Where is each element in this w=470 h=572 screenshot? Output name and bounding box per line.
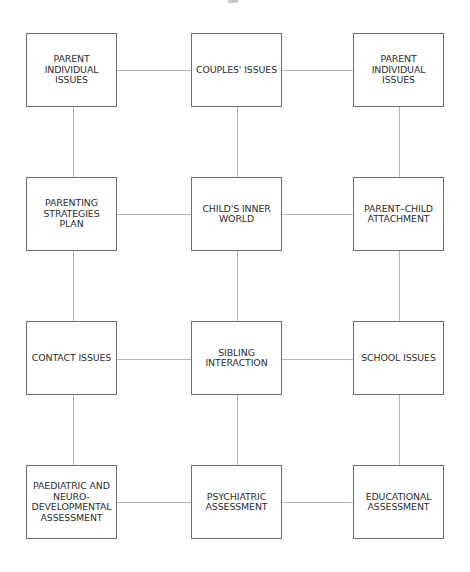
node-label: COUPLES' ISSUES: [196, 65, 277, 76]
connector: [399, 107, 400, 177]
connector: [237, 251, 238, 321]
node-paediatric-neurodevelopmental-assessment: PAEDIATRIC AND NEURO- DEVELOPMENTAL ASSE…: [26, 465, 117, 539]
node-school-issues: SCHOOL ISSUES: [353, 321, 444, 395]
node-parenting-strategies-plan: PARENTING STRATEGIES PLAN: [26, 177, 117, 251]
connector: [73, 107, 74, 177]
node-label: CHILD'S INNER WORLD: [202, 204, 270, 225]
node-contact-issues: CONTACT ISSUES: [26, 321, 117, 395]
connector: [117, 70, 191, 71]
node-label: EDUCATIONAL ASSESSMENT: [366, 492, 432, 513]
node-parent-child-attachment: PARENT–CHILD ATTACHMENT: [353, 177, 444, 251]
node-label: PARENT INDIVIDUAL ISSUES: [372, 54, 426, 86]
connector: [73, 251, 74, 321]
node-label: PSYCHIATRIC ASSESSMENT: [206, 492, 268, 513]
node-sibling-interaction: SIBLING INTERACTION: [191, 321, 282, 395]
node-label: SIBLING INTERACTION: [205, 348, 267, 369]
node-label: PARENT INDIVIDUAL ISSUES: [45, 54, 99, 86]
node-label: PARENT–CHILD ATTACHMENT: [364, 204, 433, 225]
node-parent-individual-issues-right: PARENT INDIVIDUAL ISSUES: [353, 33, 444, 107]
connector: [282, 502, 353, 503]
node-parent-individual-issues-left: PARENT INDIVIDUAL ISSUES: [26, 33, 117, 107]
node-label: SCHOOL ISSUES: [361, 353, 436, 364]
node-educational-assessment: EDUCATIONAL ASSESSMENT: [353, 465, 444, 539]
connector: [282, 70, 353, 71]
connector: [399, 251, 400, 321]
connector: [399, 395, 400, 465]
node-couples-issues: COUPLES' ISSUES: [191, 33, 282, 107]
node-childs-inner-world: CHILD'S INNER WORLD: [191, 177, 282, 251]
node-label: PAEDIATRIC AND NEURO- DEVELOPMENTAL ASSE…: [32, 481, 112, 523]
connector: [117, 214, 191, 215]
connector: [73, 395, 74, 465]
node-psychiatric-assessment: PSYCHIATRIC ASSESSMENT: [191, 465, 282, 539]
connector: [237, 107, 238, 177]
node-label: CONTACT ISSUES: [32, 353, 111, 364]
connector: [117, 502, 191, 503]
cropped-heading-fragment: [228, 0, 238, 3]
connector: [282, 359, 353, 360]
node-label: PARENTING STRATEGIES PLAN: [43, 198, 99, 230]
connector: [117, 359, 191, 360]
connector: [237, 395, 238, 465]
connector: [282, 214, 353, 215]
